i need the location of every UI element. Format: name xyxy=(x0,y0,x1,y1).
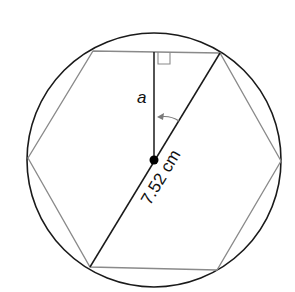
hexagon-diagram: a 7.52 cm xyxy=(0,0,295,292)
apothem-label: a xyxy=(137,88,146,107)
right-angle-marker xyxy=(158,52,170,64)
arrow-head-icon xyxy=(157,113,164,120)
